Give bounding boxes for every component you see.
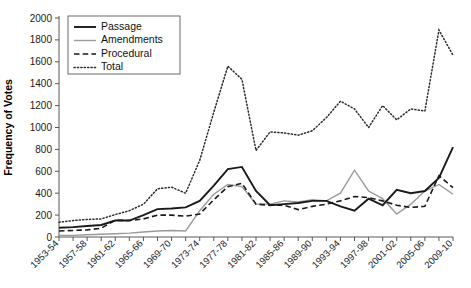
svg-text:1993-94: 1993-94 xyxy=(309,238,341,270)
y-axis-tick-labels: 0200400600800100012001400160018002000 xyxy=(30,13,53,243)
svg-text:1981-82: 1981-82 xyxy=(225,238,257,270)
svg-text:1997-98: 1997-98 xyxy=(338,238,370,270)
y-tick-label: 1000 xyxy=(30,122,53,133)
y-tick-label: 1600 xyxy=(30,56,53,67)
y-tick-label: 1400 xyxy=(30,78,53,89)
svg-text:1985-86: 1985-86 xyxy=(253,238,285,270)
x-tick-label: 1989-90 xyxy=(281,238,313,270)
y-tick-label: 1200 xyxy=(30,100,53,111)
y-tick-label: 400 xyxy=(35,188,52,199)
svg-text:2009-10: 2009-10 xyxy=(422,238,454,270)
chart-svg: 0200400600800100012001400160018002000 19… xyxy=(0,0,471,288)
y-tick-label: 200 xyxy=(35,210,52,221)
x-tick-label: 1953-54 xyxy=(28,238,60,270)
svg-text:1957-58: 1957-58 xyxy=(56,238,88,270)
svg-text:2001-02: 2001-02 xyxy=(366,238,398,270)
x-tick-label: 1957-58 xyxy=(56,238,88,270)
svg-text:2005-06: 2005-06 xyxy=(394,238,426,270)
x-tick-label: 2001-02 xyxy=(366,238,398,270)
chart-legend: PassageAmendmentsProceduralTotal xyxy=(68,16,180,74)
series-line-passage xyxy=(59,147,453,227)
legend-label-procedural: Procedural xyxy=(101,47,152,59)
y-tick-label: 2000 xyxy=(30,13,53,24)
x-tick-label: 2005-06 xyxy=(394,238,426,270)
line-chart: 0200400600800100012001400160018002000 19… xyxy=(0,0,471,288)
y-tick-label: 600 xyxy=(35,166,52,177)
svg-text:1953-54: 1953-54 xyxy=(28,238,60,270)
series-line-procedural xyxy=(59,176,453,231)
legend-label-amendments: Amendments xyxy=(101,33,163,45)
legend-label-passage: Passage xyxy=(101,20,142,32)
x-tick-label: 1981-82 xyxy=(225,238,257,270)
x-axis-tick-labels: 1953-541957-581961-621965-661969-701973-… xyxy=(28,238,454,270)
x-tick-label: 1993-94 xyxy=(309,238,341,270)
legend-label-total: Total xyxy=(101,60,123,72)
x-tick-label: 1965-66 xyxy=(112,238,144,270)
svg-text:1965-66: 1965-66 xyxy=(112,238,144,270)
y-axis-title: Frequency of Votes xyxy=(2,79,14,176)
x-tick-label: 1969-70 xyxy=(141,238,173,270)
svg-text:1977-78: 1977-78 xyxy=(197,238,229,270)
x-tick-label: 1997-98 xyxy=(338,238,370,270)
x-tick-label: 1961-62 xyxy=(84,238,116,270)
y-tick-label: 1800 xyxy=(30,34,53,45)
svg-text:1973-74: 1973-74 xyxy=(169,238,201,270)
x-tick-label: 2009-10 xyxy=(422,238,454,270)
svg-text:1989-90: 1989-90 xyxy=(281,238,313,270)
x-tick-label: 1977-78 xyxy=(197,238,229,270)
svg-text:1969-70: 1969-70 xyxy=(141,238,173,270)
svg-text:1961-62: 1961-62 xyxy=(84,238,116,270)
y-tick-label: 800 xyxy=(35,144,52,155)
y-axis-ticks xyxy=(55,18,59,237)
x-axis-ticks xyxy=(59,237,453,241)
x-tick-label: 1973-74 xyxy=(169,238,201,270)
x-tick-label: 1985-86 xyxy=(253,238,285,270)
